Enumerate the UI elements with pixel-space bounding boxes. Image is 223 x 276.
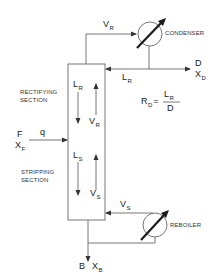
- liquid-stripping-label: LS: [73, 151, 83, 160]
- bottoms-label: B: [79, 262, 85, 271]
- stripping-section-label-1: STRIPPING: [21, 169, 54, 175]
- distillate-label: D: [195, 59, 202, 68]
- vapor-rectifying-label: VR: [89, 117, 100, 126]
- distillate-composition: XD: [195, 70, 206, 79]
- bottoms-composition: XB: [92, 262, 103, 271]
- reflux-ratio-numerator: LR: [164, 90, 174, 99]
- reboiler-label: REBOILER: [170, 222, 201, 228]
- reboiler-diagonal-arrow: [141, 214, 165, 240]
- reflux-ratio-denominator: D: [167, 104, 174, 113]
- stripping-section-label-2: SECTION: [21, 177, 48, 183]
- vapor-stripping-label: VS: [90, 189, 101, 198]
- feed-quality-label: q: [40, 128, 45, 137]
- feed-composition: XF: [15, 141, 25, 150]
- reflux-label: LR: [122, 73, 132, 82]
- rectifying-section-label-2: SECTION: [20, 97, 47, 103]
- feed-label: F: [17, 130, 23, 139]
- vapor-top-label: VR: [103, 20, 114, 29]
- diagram-lines: [0, 0, 223, 276]
- condenser-label: CONDENSER: [165, 30, 204, 36]
- reflux-ratio-lhs: RD=: [141, 97, 159, 106]
- reboiler-vapor-label: VS: [120, 200, 131, 209]
- liquid-rectifying-label: LR: [73, 80, 83, 89]
- rectifying-section-label-1: RECTIFYING: [20, 89, 57, 95]
- vapor-top-line: [86, 34, 136, 64]
